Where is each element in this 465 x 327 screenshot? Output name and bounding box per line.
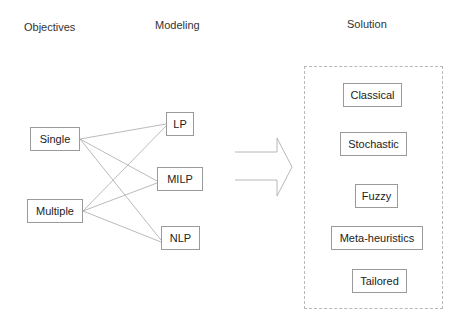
solution-classical: Classical — [343, 83, 402, 107]
edge-single-milp — [80, 139, 157, 181]
edge-single-lp — [80, 124, 166, 139]
objective-single: Single — [30, 127, 80, 151]
edge-multiple-milp — [83, 183, 157, 211]
model-nlp: NLP — [161, 226, 200, 250]
header-solution: Solution — [347, 19, 387, 30]
edge-single-nlp — [80, 139, 161, 240]
solution-tailored: Tailored — [352, 269, 407, 293]
objective-model-edges — [80, 124, 166, 242]
right-block-arrow-icon — [235, 138, 292, 196]
edge-multiple-lp — [83, 126, 166, 211]
model-lp: LP — [166, 112, 194, 136]
solution-stochastic: Stochastic — [340, 132, 407, 156]
solution-meta-heuristics: Meta-heuristics — [331, 226, 423, 250]
objective-multiple: Multiple — [27, 199, 83, 223]
header-modeling: Modeling — [155, 20, 200, 31]
model-milp: MILP — [157, 167, 203, 191]
edge-multiple-nlp — [83, 211, 161, 242]
header-objectives: Objectives — [24, 22, 75, 33]
solution-fuzzy: Fuzzy — [355, 184, 398, 208]
